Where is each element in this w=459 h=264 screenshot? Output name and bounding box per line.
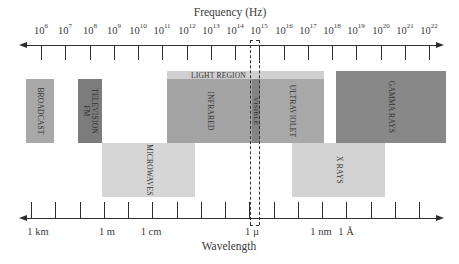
band-television-fm: TELEVISION FM <box>78 79 102 143</box>
wavelength-tick <box>152 202 153 218</box>
visible-dashed-right <box>259 40 260 225</box>
wavelength-label: 1 µ <box>245 226 259 237</box>
band-television-fm-label: TELEVISION FM <box>82 88 98 134</box>
wavelength-label: 1 Å <box>338 226 353 237</box>
left-arrow-icon <box>19 215 27 221</box>
frequency-tick-label: 109 <box>107 23 121 36</box>
wavelength-tick <box>249 202 250 218</box>
band-ultraviolet-label: ULTRAVIOLET <box>288 85 296 138</box>
frequency-tick-label: 1010 <box>129 23 147 36</box>
wavelength-tick <box>225 202 226 218</box>
frequency-tick-label: 1012 <box>178 23 196 36</box>
band-microwaves: MICROWAVES <box>102 143 195 197</box>
frequency-tick-label: 1016 <box>275 23 293 36</box>
wavelength-label: 1 m <box>99 226 115 237</box>
band-microwaves-label: MICROWAVES <box>145 144 153 195</box>
frequency-tick <box>405 45 406 60</box>
frequency-axis-line <box>26 45 437 46</box>
band-gamma-rays: GAMMA RAYS <box>336 71 446 143</box>
frequency-tick-label: 108 <box>83 23 97 36</box>
frequency-tick <box>65 45 66 60</box>
wavelength-label: 1 nm <box>310 226 331 237</box>
wavelength-tick <box>346 202 347 218</box>
visible-dashed-left <box>250 40 251 225</box>
wavelength-tick <box>55 202 56 218</box>
frequency-tick <box>162 45 163 60</box>
frequency-tick <box>138 45 139 60</box>
wavelength-axis-line <box>26 218 437 219</box>
frequency-tick-label: 107 <box>58 23 72 36</box>
right-arrow-icon <box>436 215 444 221</box>
frequency-tick <box>211 45 212 60</box>
frequency-tick-label: 1022 <box>420 23 438 36</box>
band-broadcast-label: BROADCAST <box>36 87 44 134</box>
visible-dashed-top <box>250 40 259 41</box>
wavelength-tick <box>371 202 372 218</box>
wavelength-tick <box>322 202 323 218</box>
frequency-tick-label: 1011 <box>153 23 170 36</box>
band-gamma-rays-label: GAMMA RAYS <box>387 81 395 133</box>
frequency-tick-label: 1013 <box>202 23 220 36</box>
frequency-tick <box>187 45 188 60</box>
left-arrow-icon <box>19 42 27 48</box>
frequency-tick <box>356 45 357 60</box>
wavelength-tick <box>128 202 129 218</box>
wavelength-tick <box>298 202 299 218</box>
frequency-axis-title: Frequency (Hz) <box>194 6 266 18</box>
band-x-rays-label: X RAYS <box>335 156 343 184</box>
wavelength-label: 1 cm <box>141 226 162 237</box>
band-infrared: INFRARED <box>167 79 252 143</box>
frequency-tick <box>235 45 236 60</box>
wavelength-tick <box>201 202 202 218</box>
frequency-tick <box>429 45 430 60</box>
wavelength-tick <box>177 202 178 218</box>
frequency-tick-label: 1021 <box>396 23 414 36</box>
band-ultraviolet: ULTRAVIOLET <box>260 79 324 143</box>
right-arrow-icon <box>436 42 444 48</box>
frequency-tick-label: 1017 <box>299 23 317 36</box>
frequency-tick <box>114 45 115 60</box>
frequency-tick <box>308 45 309 60</box>
wavelength-tick <box>419 202 420 218</box>
band-x-rays: X RAYS <box>292 143 385 197</box>
band-infrared-label: INFRARED <box>206 91 214 130</box>
band-light-region: LIGHT REGION <box>167 71 324 79</box>
frequency-tick <box>90 45 91 60</box>
wavelength-tick <box>274 202 275 218</box>
frequency-tick <box>332 45 333 60</box>
wavelength-tick <box>104 202 105 218</box>
wavelength-tick <box>80 202 81 218</box>
frequency-tick-label: 1014 <box>226 23 244 36</box>
wavelength-tick <box>31 202 32 218</box>
wavelength-tick <box>395 202 396 218</box>
frequency-tick-label: 1020 <box>372 23 390 36</box>
band-broadcast: BROADCAST <box>26 79 54 143</box>
frequency-tick-label: 1019 <box>347 23 365 36</box>
frequency-tick-label: 106 <box>34 23 48 36</box>
frequency-tick <box>381 45 382 60</box>
frequency-tick-label: 1018 <box>323 23 341 36</box>
wavelength-label: 1 km <box>27 226 48 237</box>
frequency-tick <box>41 45 42 60</box>
frequency-tick-label: 1015 <box>250 23 268 36</box>
wavelength-axis-title: Wavelength <box>202 240 257 252</box>
frequency-tick <box>284 45 285 60</box>
